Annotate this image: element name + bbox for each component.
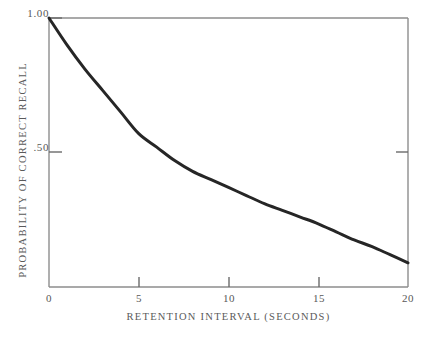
plot-canvas — [0, 0, 433, 339]
axis-frame — [49, 18, 408, 287]
x-axis-ticks — [139, 277, 319, 287]
x-tick-label-5: 5 — [136, 292, 142, 304]
y-axis-title: PROBABILITY OF CORRECT RECALL — [17, 45, 28, 295]
figure-container: 1.00 .50 0 5 10 15 20 PROBABILITY OF COR… — [0, 0, 433, 339]
recall-curve — [49, 18, 408, 263]
x-tick-label-15: 15 — [313, 292, 325, 304]
y-tick-label-1-00: 1.00 — [27, 7, 49, 19]
y-tick-label-0-50: .50 — [33, 141, 49, 153]
y-axis-ticks — [49, 18, 408, 152]
x-axis-title: RETENTION INTERVAL (SECONDS) — [49, 311, 408, 322]
x-tick-label-10: 10 — [223, 292, 235, 304]
x-tick-label-0: 0 — [46, 292, 52, 304]
x-tick-label-20: 20 — [402, 292, 414, 304]
